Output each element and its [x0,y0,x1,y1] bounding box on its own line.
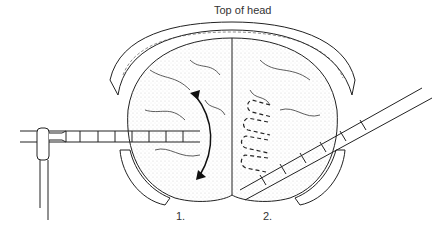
brain [128,38,338,201]
brain-cross-section-diagram [0,0,447,231]
